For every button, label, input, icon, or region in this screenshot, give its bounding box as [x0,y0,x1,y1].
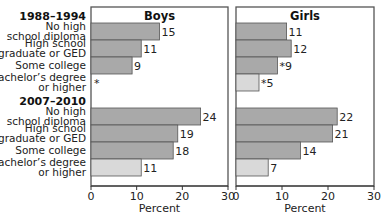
panel-title: Girls [290,9,320,23]
bar [91,125,178,142]
bar [236,23,287,40]
bar [236,142,300,159]
bar [236,125,333,142]
bar [91,142,173,159]
category-label: graduate or GED [0,132,86,144]
x-axis-label: Percent [284,202,326,215]
data-label: 18 [175,145,189,158]
x-axis-label: Percent [139,202,181,215]
bar [236,159,268,176]
x-tick-label: 0 [233,190,240,203]
data-label: 11 [143,162,157,175]
bar [91,108,201,125]
data-label: 7 [270,162,277,175]
bar [236,108,337,125]
bar [236,57,277,74]
chart: 1988–1994No highschool diplomaHigh schoo… [0,0,385,215]
data-label: 11 [289,26,303,39]
data-label: *5 [261,77,274,90]
data-label: 11 [143,43,157,56]
bar [236,74,259,91]
x-tick-label: 30 [367,190,381,203]
category-label: or higher [38,166,86,178]
bar [91,23,160,40]
category-label: Some college [15,144,86,156]
data-label: 22 [339,111,353,124]
bar [91,40,141,57]
bar [236,40,291,57]
data-label: 19 [180,128,194,141]
x-tick-label: 0 [88,190,95,203]
panel-title: Boys [144,9,175,23]
category-label: graduate or GED [0,47,86,59]
category-label: Some college [15,59,86,71]
data-label: 15 [162,26,176,39]
data-label: 9 [134,60,141,73]
data-label: * [94,77,100,90]
data-label: *9 [279,60,292,73]
data-label: 21 [335,128,349,141]
category-label: or higher [38,81,86,93]
data-label: 12 [293,43,307,56]
data-label: 24 [203,111,217,124]
bar [91,159,141,176]
bar [91,57,132,74]
data-label: 14 [302,145,316,158]
